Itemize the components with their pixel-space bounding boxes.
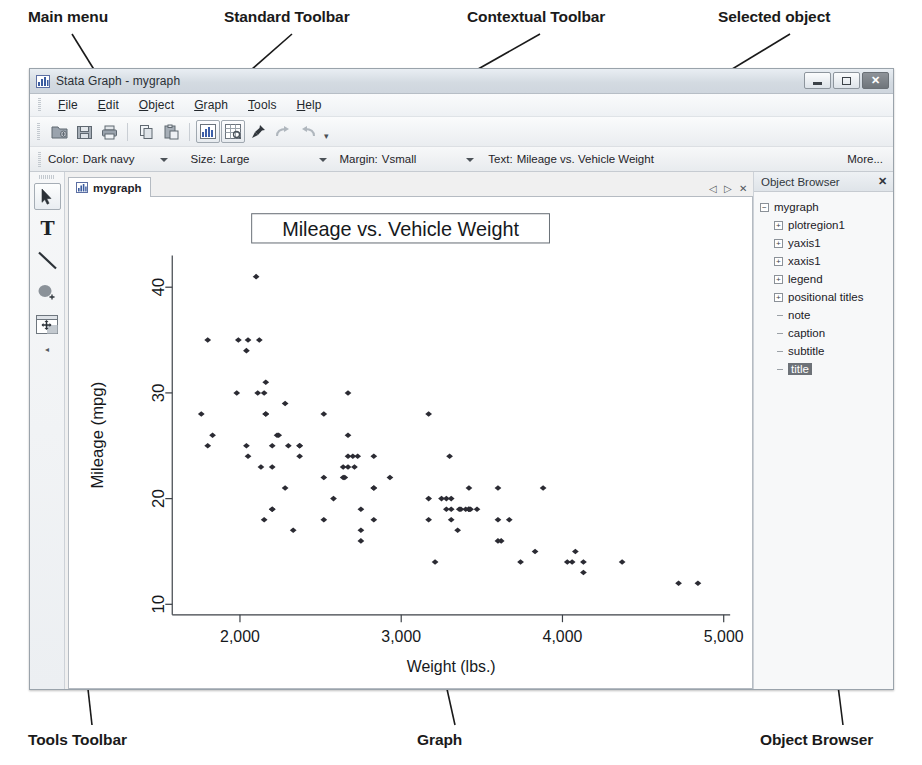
object-browser-tree[interactable]: −mygraph+plotregion1+yaxis1+xaxis1+legen… <box>754 192 893 689</box>
tabbar-filler <box>151 176 753 197</box>
ctx-color-label: Color: <box>48 153 79 165</box>
tree-expand-icon[interactable]: + <box>774 257 783 266</box>
toolbar-overflow-icon[interactable]: ▾ <box>324 131 329 146</box>
ctx-margin-group[interactable]: Margin: Vsmall <box>339 153 416 165</box>
callout-standard-toolbar: Standard Toolbar <box>224 8 350 26</box>
tree-item-legend[interactable]: +legend <box>754 270 893 288</box>
tree-expand-icon[interactable]: + <box>774 221 783 230</box>
menu-file[interactable]: File <box>48 96 88 114</box>
callout-tools-toolbar: Tools Toolbar <box>28 731 127 749</box>
y-tick-label: 40 <box>150 278 168 297</box>
callout-contextual-toolbar: Contextual Toolbar <box>467 8 605 26</box>
tab-next-icon[interactable]: ▷ <box>724 183 732 194</box>
callout-object-browser: Object Browser <box>760 731 873 749</box>
x-tick-label: 3,000 <box>381 627 421 645</box>
pointer-tool[interactable] <box>34 183 61 210</box>
ctx-text-group[interactable]: Text: Mileage vs. Vehicle Weight <box>488 153 654 165</box>
menu-edit[interactable]: Edit <box>88 96 129 114</box>
scatter-plot[interactable]: Mileage vs. Vehicle Weight 10203040 2,00… <box>69 197 752 688</box>
text-tool[interactable]: T <box>34 215 61 242</box>
shape-tool[interactable] <box>34 279 61 306</box>
graph-editor-icon[interactable] <box>196 120 220 143</box>
tree-expand-icon[interactable]: + <box>774 275 783 284</box>
y-tick-label: 20 <box>150 489 168 508</box>
tree-item-label: note <box>788 309 810 321</box>
tree-leaf-connector <box>774 369 783 370</box>
tree-item-label: subtitle <box>788 345 824 357</box>
save-icon[interactable] <box>72 120 96 143</box>
tree-item-xaxis1[interactable]: +xaxis1 <box>754 252 893 270</box>
open-icon[interactable] <box>47 120 71 143</box>
callout-main-menu: Main menu <box>28 8 108 26</box>
tree-collapse-icon[interactable]: − <box>760 203 769 212</box>
graph-canvas[interactable]: Mileage vs. Vehicle Weight 10203040 2,00… <box>68 197 753 689</box>
toolbar-separator <box>189 123 190 141</box>
ctx-size-group[interactable]: Size: Large <box>190 153 249 165</box>
work-area: T <box>30 172 893 689</box>
tree-item-positional-titles[interactable]: +positional titles <box>754 288 893 306</box>
chart-title[interactable]: Mileage vs. Vehicle Weight <box>282 217 519 240</box>
ctx-toolbar-grip[interactable] <box>38 152 41 167</box>
menu-tools[interactable]: Tools <box>238 96 287 114</box>
window-titlebar[interactable]: Stata Graph - mygraph ✕ <box>30 69 893 94</box>
tools-toolbar-grip[interactable] <box>39 175 55 179</box>
menu-graph[interactable]: Graph <box>184 96 238 114</box>
window-controls: ✕ <box>804 72 889 89</box>
grid-move-tool[interactable] <box>34 311 61 338</box>
toolbar-separator <box>127 123 128 141</box>
std-toolbar-grip[interactable] <box>37 123 40 141</box>
tab-label: mygraph <box>93 182 142 194</box>
tree-item-label: title <box>788 363 812 375</box>
window-title: Stata Graph - mygraph <box>56 74 180 88</box>
minimize-button[interactable] <box>804 72 831 89</box>
standard-toolbar: ▾ <box>30 117 893 147</box>
maximize-button[interactable] <box>833 72 860 89</box>
menubar-grip[interactable] <box>38 98 41 112</box>
tools-collapse-icon[interactable]: ◂ <box>45 345 49 354</box>
pin-icon[interactable] <box>246 120 270 143</box>
tree-item-mygraph[interactable]: −mygraph <box>754 198 893 216</box>
tree-item-yaxis1[interactable]: +yaxis1 <box>754 234 893 252</box>
ctx-size-dropdown-icon[interactable] <box>319 158 327 162</box>
close-button[interactable]: ✕ <box>862 72 889 89</box>
tree-expand-icon[interactable]: + <box>774 239 783 248</box>
tree-item-title[interactable]: title <box>754 360 893 378</box>
graph-icon <box>76 182 88 193</box>
grid-editor-icon[interactable] <box>221 120 245 143</box>
tree-item-plotregion1[interactable]: +plotregion1 <box>754 216 893 234</box>
undo-icon[interactable] <box>296 120 320 143</box>
tab-close-icon[interactable]: ✕ <box>739 183 747 194</box>
tree-leaf-connector <box>774 333 783 334</box>
tab-prev-icon[interactable]: ◁ <box>709 183 717 194</box>
print-icon[interactable] <box>97 120 121 143</box>
object-browser-close-icon[interactable]: ✕ <box>878 175 887 188</box>
ctx-more-button[interactable]: More... <box>847 153 883 165</box>
ctx-color-group[interactable]: Color: Dark navy <box>48 153 134 165</box>
callout-graph: Graph <box>417 731 462 749</box>
ctx-color-dropdown-icon[interactable] <box>160 158 168 162</box>
tree-item-label: xaxis1 <box>788 255 821 267</box>
document-pane: mygraph ◁ ▷ ✕ Mileage vs. Vehicle Weight <box>65 172 753 689</box>
graph-icon <box>36 75 50 88</box>
menu-help[interactable]: Help <box>287 96 332 114</box>
svg-text:T: T <box>40 219 54 238</box>
tree-expand-icon[interactable]: + <box>774 293 783 302</box>
menu-object[interactable]: Object <box>129 96 184 114</box>
x-tick-label: 4,000 <box>543 627 583 645</box>
ctx-text-label: Text: <box>488 153 512 165</box>
tab-mygraph[interactable]: mygraph <box>68 177 151 197</box>
tree-item-label: mygraph <box>774 201 819 213</box>
redo-icon[interactable] <box>271 120 295 143</box>
document-tabbar: mygraph ◁ ▷ ✕ <box>68 175 753 197</box>
line-tool[interactable] <box>34 247 61 274</box>
y-axis-label: Mileage (mpg) <box>88 382 106 489</box>
copy-icon[interactable] <box>134 120 158 143</box>
tab-navigation: ◁ ▷ ✕ <box>709 183 747 194</box>
x-tick-label: 2,000 <box>220 627 260 645</box>
ctx-margin-value: Vsmall <box>382 153 417 165</box>
ctx-margin-dropdown-icon[interactable] <box>466 158 474 162</box>
tree-item-subtitle[interactable]: subtitle <box>754 342 893 360</box>
tree-item-note[interactable]: note <box>754 306 893 324</box>
tree-item-caption[interactable]: caption <box>754 324 893 342</box>
paste-icon[interactable] <box>159 120 183 143</box>
